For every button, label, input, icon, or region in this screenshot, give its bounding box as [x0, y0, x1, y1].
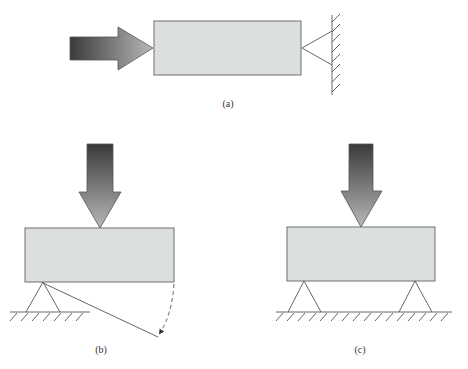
rotation-radius-line: [43, 283, 158, 337]
panel-c: (c): [276, 144, 452, 356]
block-b: [25, 228, 174, 282]
panel-a: (a): [70, 14, 340, 110]
force-arrow-vertical-b: [79, 144, 121, 228]
panel-label-a: (a): [222, 98, 233, 110]
rotation-arc-dashed: [160, 284, 174, 333]
panel-b: (b): [10, 144, 174, 356]
block-c: [287, 227, 435, 281]
mechanics-diagram: (a) (b): [0, 0, 468, 369]
panel-label-b: (b): [95, 344, 107, 356]
ground-b: [10, 312, 90, 321]
block-a: [154, 21, 301, 75]
force-arrow-vertical-c: [341, 144, 382, 227]
pin-support-c-left: [288, 281, 321, 312]
panel-label-c: (c): [354, 344, 365, 356]
pin-support-c-right: [399, 281, 432, 312]
force-arrow-horizontal: [70, 27, 153, 70]
pin-support-b: [26, 282, 60, 312]
ground-c: [276, 312, 452, 321]
pin-support-wall: [302, 14, 340, 95]
